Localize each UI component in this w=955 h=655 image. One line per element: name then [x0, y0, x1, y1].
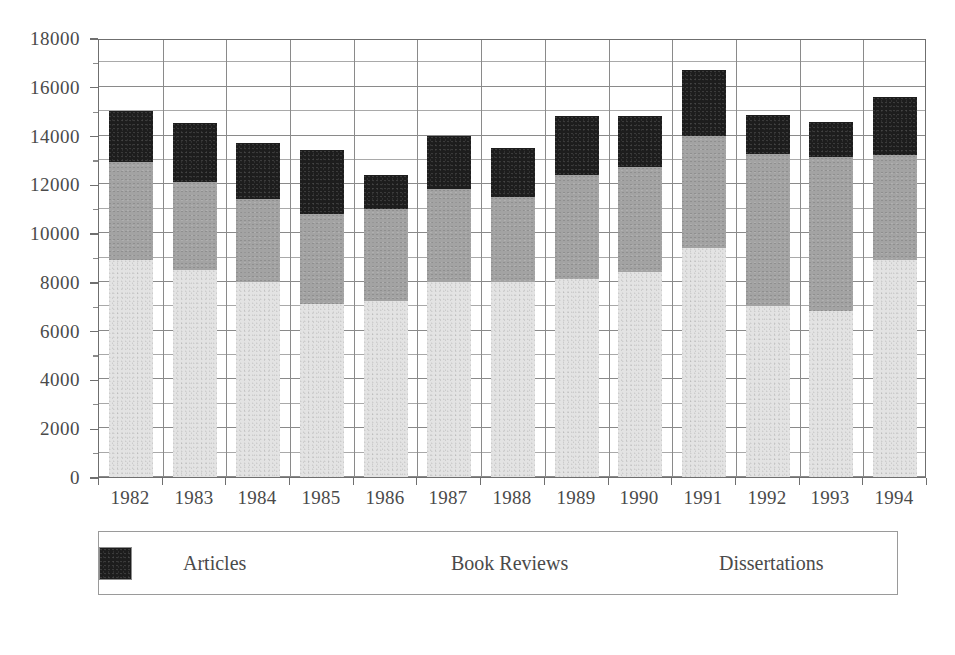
bar-segment-articles [173, 270, 217, 477]
x-tick [671, 478, 672, 485]
x-axis-label-1989: 1989 [546, 488, 606, 508]
y-axis-label: 16000 [30, 78, 80, 97]
bar-segment-articles [618, 272, 662, 477]
x-tick [289, 478, 290, 485]
legend-label: Dissertations [719, 553, 823, 573]
y-tick-major [90, 185, 98, 186]
bar-segment-dissertations [491, 148, 535, 197]
x-tick [416, 478, 417, 485]
legend-item-book-reviews: Book Reviews [425, 553, 693, 573]
plot-area [98, 39, 926, 478]
bar-segment-articles [300, 304, 344, 477]
y-tick-major [90, 477, 98, 478]
y-tick-major [90, 331, 98, 332]
bar-segment-dissertations [300, 150, 344, 213]
bar-segment-dissertations [236, 143, 280, 199]
bar-segment-dissertations [873, 97, 917, 155]
bar-segment-articles [873, 260, 917, 477]
x-tick [225, 478, 226, 485]
y-axis-label: 10000 [30, 224, 80, 243]
bar-segment-book-reviews [109, 162, 153, 260]
x-tick [480, 478, 481, 485]
bar-segment-articles [809, 311, 853, 477]
bar-segment-dissertations [746, 115, 790, 154]
x-axis-label-1983: 1983 [164, 488, 224, 508]
legend-item-dissertations: Dissertations [693, 553, 823, 573]
x-axis-label-1990: 1990 [609, 488, 669, 508]
x-tick [799, 478, 800, 485]
y-tick-major [90, 38, 98, 39]
y-tick-major [90, 233, 98, 234]
y-axis-label: 14000 [30, 127, 80, 146]
bar-segment-book-reviews [491, 197, 535, 282]
x-tick [862, 478, 863, 485]
x-tick [608, 478, 609, 485]
y-axis-label: 6000 [40, 322, 80, 341]
bar-segment-book-reviews [236, 199, 280, 282]
bar-segment-book-reviews [300, 214, 344, 304]
bar-segment-dissertations [682, 70, 726, 136]
y-axis-label: 8000 [40, 273, 80, 292]
bar-segment-book-reviews [873, 155, 917, 260]
x-axis-label-1993: 1993 [800, 488, 860, 508]
bar-segment-book-reviews [427, 189, 471, 282]
y-tick-major [90, 429, 98, 430]
bar-segment-articles [364, 301, 408, 477]
x-axis-label-1985: 1985 [291, 488, 351, 508]
bar-segment-articles [746, 306, 790, 477]
y-tick-major [90, 87, 98, 88]
y-axis-label: 12000 [30, 175, 80, 194]
bar-segment-articles [109, 260, 153, 477]
bars-layer [99, 40, 925, 477]
chart-root: 0200040006000800010000120001400016000180… [0, 0, 955, 655]
bar-segment-book-reviews [682, 136, 726, 248]
x-axis-label-1988: 1988 [482, 488, 542, 508]
x-axis-label-1991: 1991 [673, 488, 733, 508]
black-swatch [99, 547, 132, 580]
x-axis-label-1992: 1992 [737, 488, 797, 508]
x-tick [162, 478, 163, 485]
x-tick [735, 478, 736, 485]
x-tick [926, 478, 927, 485]
x-tick [98, 478, 99, 485]
bar-segment-articles [427, 282, 471, 477]
y-axis-label: 4000 [40, 370, 80, 389]
bar-segment-book-reviews [555, 175, 599, 280]
x-axis-label-1984: 1984 [227, 488, 287, 508]
x-axis-label-1987: 1987 [418, 488, 478, 508]
bar-segment-book-reviews [618, 167, 662, 272]
bar-segment-dissertations [555, 116, 599, 175]
y-axis: 0200040006000800010000120001400016000180… [0, 30, 94, 490]
x-axis-label-1986: 1986 [355, 488, 415, 508]
chart-legend: ArticlesBook ReviewsDissertations [98, 531, 898, 595]
bar-segment-articles [555, 279, 599, 477]
bar-segment-book-reviews [364, 209, 408, 302]
legend-label: Book Reviews [451, 553, 568, 573]
bar-segment-dissertations [364, 175, 408, 209]
bar-segment-book-reviews [173, 182, 217, 270]
bar-segment-dissertations [109, 111, 153, 162]
y-tick-major [90, 282, 98, 283]
y-tick-major [90, 136, 98, 137]
legend-label: Articles [183, 553, 246, 573]
y-axis-label: 18000 [30, 29, 80, 48]
x-axis-label-1982: 1982 [100, 488, 160, 508]
bar-segment-articles [236, 282, 280, 477]
bar-segment-dissertations [173, 123, 217, 182]
bar-segment-book-reviews [809, 157, 853, 311]
y-axis-label: 2000 [40, 419, 80, 438]
bar-segment-articles [491, 282, 535, 477]
y-tick-major [90, 380, 98, 381]
x-tick [544, 478, 545, 485]
x-axis: 1982198319841985198619871988198919901991… [98, 478, 926, 512]
bar-segment-dissertations [618, 116, 662, 167]
bar-segment-dissertations [809, 122, 853, 157]
x-tick [353, 478, 354, 485]
x-axis-label-1994: 1994 [864, 488, 924, 508]
y-axis-label: 0 [70, 468, 80, 487]
bar-segment-articles [682, 248, 726, 477]
bar-segment-book-reviews [746, 154, 790, 306]
legend-item-articles: Articles [157, 553, 425, 573]
bar-segment-dissertations [427, 136, 471, 190]
